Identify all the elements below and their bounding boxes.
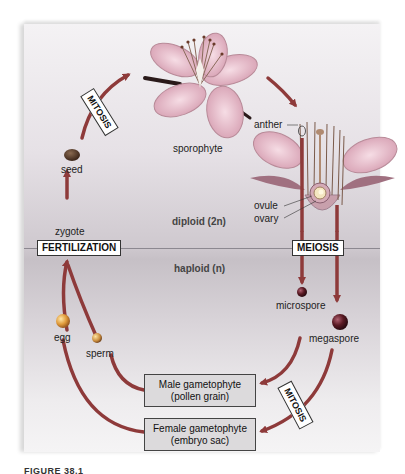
female-gametophyte-title: Female gametophyte	[145, 423, 255, 435]
male-gametophyte-box: Male gametophyte (pollen grain)	[144, 374, 256, 407]
sperm-label: sperm	[86, 348, 114, 359]
male-gametophyte-title: Male gametophyte	[145, 379, 255, 391]
ovary-label: ovary	[254, 213, 278, 224]
female-gametophyte-subtitle: (embryo sac)	[145, 435, 255, 447]
figure-caption: FIGURE 38.1	[24, 466, 84, 474]
egg-label: egg	[54, 332, 71, 343]
male-gametophyte-subtitle: (pollen grain)	[145, 391, 255, 403]
arrow-male-to-sperm	[111, 355, 144, 390]
microspore-label: microspore	[276, 300, 325, 311]
arrow-sperm-to-fertilization	[68, 265, 97, 338]
sporophyte-flower-illustration	[145, 31, 261, 141]
diploid-label: diploid (2n)	[172, 216, 226, 227]
megaspore-label: megaspore	[309, 333, 359, 344]
seed-illustration	[64, 149, 80, 161]
anther-label: anther	[254, 119, 282, 130]
sporophyte-label: sporophyte	[173, 143, 222, 154]
sperm-illustration	[92, 333, 102, 343]
ovule-label: ovule	[254, 200, 278, 211]
female-gametophyte-box: Female gametophyte (embryo sac)	[144, 418, 256, 451]
haploid-label: haploid (n)	[174, 263, 225, 274]
seed-label: seed	[61, 164, 83, 175]
zygote-label: zygote	[55, 226, 84, 237]
egg-illustration	[56, 314, 70, 328]
meiosis-box: MEIOSIS	[292, 240, 344, 256]
arrow-sporophyte-to-flower	[268, 78, 295, 105]
fertilization-box: FERTILIZATION	[37, 240, 121, 256]
megaspore-illustration	[332, 314, 348, 330]
microspore-illustration	[297, 287, 307, 297]
arrow-microspore-to-male	[262, 338, 300, 383]
